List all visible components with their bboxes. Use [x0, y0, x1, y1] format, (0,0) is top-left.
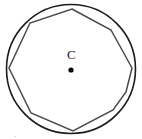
figure-container: C . — [0, 0, 142, 139]
center-label-c: C — [67, 48, 76, 61]
center-point-dot — [68, 67, 73, 72]
geometry-figure — [0, 0, 142, 139]
